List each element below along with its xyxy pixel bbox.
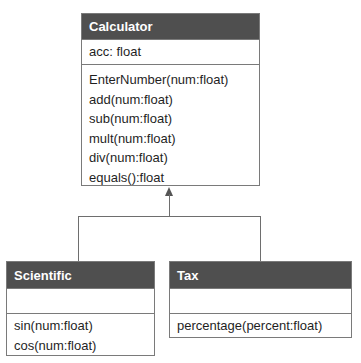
class-scientific: Scientific sin(num:float) cos(num:float) [6,261,155,356]
class-calculator-methods: EnterNumber(num:float) add(num:float) su… [82,64,259,190]
connector-scientific [78,216,79,262]
connector-tax [260,216,261,262]
method-percentage: percentage(percent:float) [177,316,344,336]
method-equals: equals():float [89,168,252,188]
method-cos: cos(num:float) [14,336,147,356]
connector-horizontal [78,216,261,217]
class-tax-attributes [170,288,351,313]
method-sub: sub(num:float) [89,109,252,129]
class-scientific-methods: sin(num:float) cos(num:float) [7,313,154,358]
method-enternumber: EnterNumber(num:float) [89,70,252,90]
method-sin: sin(num:float) [14,316,147,336]
class-tax: Tax percentage(percent:float) [169,261,352,338]
class-tax-name: Tax [170,262,351,288]
method-add: add(num:float) [89,90,252,110]
class-calculator-name: Calculator [82,14,259,39]
method-div: div(num:float) [89,148,252,168]
class-calculator: Calculator acc: float EnterNumber(num:fl… [81,13,260,186]
attribute-acc: acc: float [89,42,252,62]
method-mult: mult(num:float) [89,129,252,149]
connector-trunk [169,194,170,217]
class-calculator-attributes: acc: float [82,39,259,64]
class-scientific-name: Scientific [7,262,154,288]
class-scientific-attributes [7,288,154,313]
class-tax-methods: percentage(percent:float) [170,313,351,339]
